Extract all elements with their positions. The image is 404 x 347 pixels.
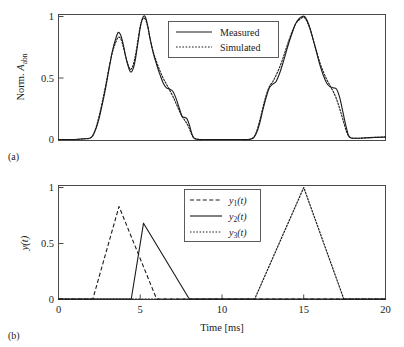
panel-b-xtick-label-0: 0 bbox=[56, 304, 61, 315]
panel-b-tag: (b) bbox=[8, 330, 20, 342]
panel-a-ylabel: Norm. Aabn bbox=[15, 53, 29, 100]
panel-b-legend: y1(t) y2(t) y3(t) bbox=[185, 190, 261, 242]
panel-b-xtick-label-10: 10 bbox=[217, 304, 228, 315]
figure-svg: 1 0.5 0 Norm. Aabn Measured Simulated (a… bbox=[0, 0, 404, 347]
panel-b-ytick-label-0-5: 0.5 bbox=[41, 238, 54, 249]
panel-b: 1 0.5 0 0 5 10 15 20 y(t) Time [ms] bbox=[8, 182, 391, 342]
panel-a-ylabel-prefix: Norm. bbox=[15, 71, 26, 101]
panel-b-ylabel-arg: (t) bbox=[19, 235, 31, 245]
panel-a-ytick-label-0-5: 0.5 bbox=[41, 73, 54, 84]
panel-b-legend-y3-arg: (t) bbox=[237, 227, 247, 239]
panel-b-ytick-label-1: 1 bbox=[49, 182, 54, 193]
panel-b-xtick-label-15: 15 bbox=[298, 304, 309, 315]
panel-b-ylabel-text: y(t) bbox=[19, 235, 31, 251]
panel-a-ylabel-subscript: abn bbox=[20, 53, 29, 64]
panel-a: 1 0.5 0 Norm. Aabn Measured Simulated (a… bbox=[8, 11, 386, 163]
panel-b-legend-y2-arg: (t) bbox=[237, 211, 247, 223]
panel-b-xlabel: Time [ms] bbox=[200, 322, 244, 333]
panel-b-xtick-label-20: 20 bbox=[380, 304, 391, 315]
panel-a-ylabel-text: Norm. Aabn bbox=[15, 53, 29, 100]
figure-container: 1 0.5 0 Norm. Aabn Measured Simulated (a… bbox=[0, 0, 404, 347]
panel-b-xtick-label-5: 5 bbox=[138, 304, 143, 315]
panel-a-ytick-label-1: 1 bbox=[49, 11, 54, 22]
panel-a-legend: Measured Simulated bbox=[169, 22, 279, 58]
panel-a-tag: (a) bbox=[8, 151, 19, 163]
panel-b-ytick-label-0: 0 bbox=[49, 294, 54, 305]
panel-a-legend-label-measured: Measured bbox=[220, 27, 259, 38]
panel-a-ytick-label-0: 0 bbox=[49, 134, 54, 145]
panel-b-ylabel: y(t) bbox=[19, 235, 31, 251]
panel-b-legend-y1-arg: (t) bbox=[237, 195, 247, 207]
panel-a-legend-label-simulated: Simulated bbox=[220, 42, 261, 53]
